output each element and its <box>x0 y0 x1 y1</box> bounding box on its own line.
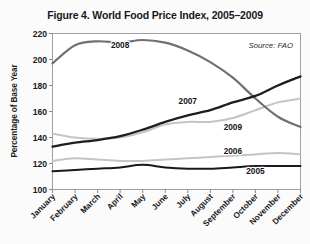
line-chart-svg: Percentage of Base Year 1001201401601802… <box>0 0 310 244</box>
y-tick-label: 220 <box>33 29 48 39</box>
series-label-2007: 2007 <box>179 96 198 106</box>
series-label-2005: 2005 <box>246 166 265 176</box>
y-tick-label: 180 <box>33 81 48 91</box>
source-note: Source: FAO <box>249 41 294 50</box>
y-axis-ticks: 100120140160180200220 <box>33 29 53 195</box>
x-tick-label: July <box>174 192 192 210</box>
x-tick-label: June <box>150 192 170 212</box>
y-tick-label: 160 <box>33 107 48 117</box>
figure-container: Figure 4. World Food Price Index, 2005–2… <box>0 0 310 244</box>
x-tick-label: April <box>105 192 125 212</box>
chart-plot-area: Percentage of Base Year 1001201401601802… <box>0 0 310 244</box>
x-tick-label: May <box>130 192 148 210</box>
y-tick-label: 100 <box>33 185 48 195</box>
x-axis-ticks: JanuaryFebruaryMarchAprilMayJuneJulyAugu… <box>29 190 306 229</box>
y-tick-label: 120 <box>33 159 48 169</box>
y-tick-label: 140 <box>33 133 48 143</box>
series-label-2009: 2009 <box>224 122 243 132</box>
x-tick-label: March <box>79 192 102 215</box>
series-label-2006: 2006 <box>224 146 243 156</box>
series-label-2008: 2008 <box>111 40 130 50</box>
y-axis-title: Percentage of Base Year <box>10 64 19 158</box>
y-tick-label: 200 <box>33 55 48 65</box>
